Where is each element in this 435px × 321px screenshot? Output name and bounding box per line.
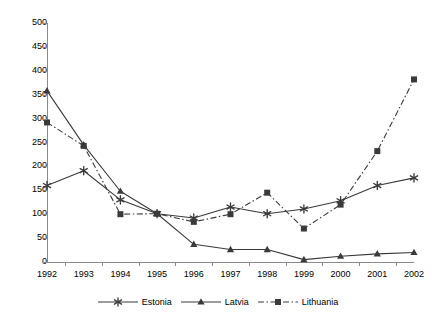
- x-axis-tick-label: 1995: [137, 270, 177, 279]
- series-line: [47, 79, 414, 228]
- data-point-marker-0-5: [227, 203, 234, 211]
- y-axis-tick-mark: [43, 262, 47, 263]
- x-axis-tick-mark: [249, 262, 250, 266]
- y-axis-tick-label: 0: [7, 257, 47, 266]
- data-point-marker-2-10: [411, 76, 417, 82]
- data-point-marker-1-10: [410, 249, 417, 255]
- x-axis-tick-mark: [322, 262, 323, 266]
- series-line: [47, 91, 414, 260]
- y-axis-tick-mark: [43, 95, 47, 96]
- x-axis-tick-label: 1996: [174, 270, 214, 279]
- y-axis-tick-mark: [43, 143, 47, 144]
- x-axis-tick-mark: [359, 262, 360, 266]
- y-axis-tick-label: 50: [7, 233, 47, 242]
- y-axis-tick-label: 100: [7, 209, 47, 218]
- legend-swatch-triangle-icon: [180, 297, 222, 307]
- data-point-marker-0-4: [190, 214, 197, 222]
- data-point-marker-1-3: [154, 210, 161, 216]
- x-axis-tick-label: 1994: [100, 270, 140, 279]
- y-axis-line: [47, 23, 48, 263]
- data-point-marker-0-9: [374, 181, 381, 189]
- data-point-marker-0-1: [80, 167, 87, 175]
- y-axis-tick-label: 400: [7, 66, 47, 75]
- legend-label: Lithuania: [302, 298, 339, 307]
- data-point-marker-2-9: [374, 148, 380, 154]
- y-axis-tick-label: 500: [7, 18, 47, 27]
- x-axis-tick-mark: [102, 262, 103, 266]
- x-axis-tick-label: 1997: [211, 270, 251, 279]
- x-axis-tick-label: 1999: [284, 270, 324, 279]
- x-axis-tick-label: 1998: [247, 270, 287, 279]
- x-axis-tick-mark: [396, 262, 397, 266]
- data-point-marker-2-7: [301, 226, 307, 232]
- data-point-marker-0-10: [410, 174, 417, 182]
- series-lithuania: [44, 76, 417, 231]
- x-axis-tick-mark: [175, 262, 176, 266]
- legend-entry-lithuania[interactable]: Lithuania: [257, 297, 339, 307]
- legend-swatch-square-icon: [257, 297, 299, 307]
- data-point-marker-2-2: [117, 211, 123, 217]
- data-point-marker-legend-1: [197, 298, 204, 304]
- data-point-marker-1-6: [264, 246, 271, 252]
- y-axis-tick-label: 300: [7, 114, 47, 123]
- data-point-marker-1-1: [80, 141, 87, 147]
- series-line: [47, 171, 414, 218]
- data-point-marker-0-3: [154, 210, 161, 218]
- data-point-marker-2-6: [264, 190, 270, 196]
- y-axis-tick-label: 350: [7, 90, 47, 99]
- chart-legend: EstoniaLatviaLithuania: [0, 297, 435, 307]
- y-axis-tick-mark: [43, 119, 47, 120]
- y-axis-tick-mark: [43, 23, 47, 24]
- x-axis-tick-mark: [139, 262, 140, 266]
- y-axis-tick-label: 200: [7, 161, 47, 170]
- data-point-marker-1-4: [190, 241, 197, 247]
- data-point-marker-2-3: [154, 211, 160, 217]
- data-point-marker-2-4: [191, 219, 197, 225]
- legend-label: Latvia: [225, 298, 249, 307]
- y-axis-tick-label: 250: [7, 138, 47, 147]
- data-point-marker-0-6: [264, 210, 271, 218]
- legend-entry-estonia[interactable]: Estonia: [97, 297, 172, 307]
- y-axis-tick-mark: [43, 214, 47, 215]
- y-axis-tick-mark: [43, 238, 47, 239]
- x-axis-tick-mark: [65, 262, 66, 266]
- legend-entry-latvia[interactable]: Latvia: [180, 297, 249, 307]
- data-point-marker-2-5: [228, 211, 234, 217]
- x-axis-tick-mark: [212, 262, 213, 266]
- data-point-marker-2-8: [338, 202, 344, 208]
- data-point-marker-1-9: [374, 250, 381, 256]
- data-point-marker-legend-2: [275, 299, 281, 305]
- data-point-marker-1-8: [337, 252, 344, 258]
- data-point-marker-1-5: [227, 246, 234, 252]
- y-axis-tick-mark: [43, 47, 47, 48]
- series-latvia: [43, 87, 417, 262]
- y-axis-tick-label: 150: [7, 185, 47, 194]
- x-axis-tick-mark: [286, 262, 287, 266]
- x-axis-tick-label: 2002: [394, 270, 434, 279]
- y-axis-tick-mark: [43, 166, 47, 167]
- chart-container: 500450400350300250200150100500 199219931…: [0, 0, 435, 321]
- legend-label: Estonia: [142, 298, 172, 307]
- data-point-marker-0-2: [117, 196, 124, 204]
- x-axis-tick-label: 2000: [321, 270, 361, 279]
- data-point-marker-0-7: [300, 205, 307, 213]
- x-axis-tick-label: 1992: [27, 270, 67, 279]
- data-point-marker-1-2: [117, 187, 124, 193]
- y-axis-tick-label: 450: [7, 42, 47, 51]
- series-estonia: [43, 167, 417, 223]
- data-point-marker-0-8: [337, 197, 344, 205]
- y-axis-tick-mark: [43, 71, 47, 72]
- x-axis-tick-label: 2001: [357, 270, 397, 279]
- x-axis-tick-label: 1993: [64, 270, 104, 279]
- legend-swatch-asterisk-icon: [97, 297, 139, 307]
- y-axis-tick-mark: [43, 190, 47, 191]
- data-point-marker-2-1: [81, 143, 87, 149]
